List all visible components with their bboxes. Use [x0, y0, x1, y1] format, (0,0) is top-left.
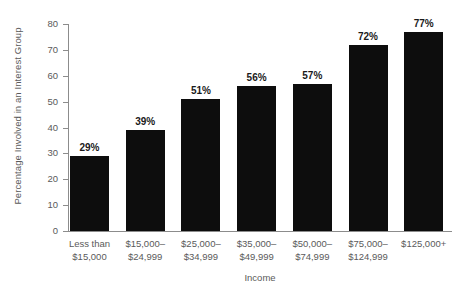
y-tick-label: 60 [18, 71, 58, 81]
bar-group[interactable]: 56% [237, 24, 276, 231]
y-tick-label: 30 [18, 148, 58, 158]
bar[interactable] [293, 84, 332, 231]
y-tick-mark [63, 231, 68, 232]
y-tick-label: 70 [18, 45, 58, 55]
y-tick-label: 10 [18, 200, 58, 210]
bar-value-label: 77% [396, 18, 451, 29]
bar-value-label: 57% [285, 70, 340, 81]
bar-value-label: 39% [118, 116, 173, 127]
x-tick-label: $125,000+ [389, 238, 459, 251]
bar[interactable] [126, 130, 165, 231]
x-axis-line [68, 231, 452, 232]
bar-group[interactable]: 77% [404, 24, 443, 231]
bar[interactable] [237, 86, 276, 231]
bar-group[interactable]: 29% [70, 24, 109, 231]
y-axis-title: Percentage Involved in an Interest Group [6, 0, 28, 232]
bar-group[interactable]: 39% [126, 24, 165, 231]
bar-group[interactable]: 51% [181, 24, 220, 231]
bar-value-label: 29% [62, 142, 117, 153]
x-tick-label-line: $124,999 [333, 251, 403, 264]
y-tick-label: 0 [18, 226, 58, 236]
bar[interactable] [181, 99, 220, 231]
bar[interactable] [404, 32, 443, 231]
bar[interactable] [70, 156, 109, 231]
bar-value-label: 56% [229, 72, 284, 83]
x-tick-label-line: $125,000+ [389, 238, 459, 251]
y-tick-label: 80 [18, 19, 58, 29]
y-tick-label: 20 [18, 174, 58, 184]
bar-group[interactable]: 57% [293, 24, 332, 231]
bar-group[interactable]: 72% [349, 24, 388, 231]
y-tick-label: 40 [18, 123, 58, 133]
bar-chart-figure: Percentage Involved in an Interest Group… [0, 0, 468, 300]
x-axis-title: Income [68, 272, 452, 283]
bar[interactable] [349, 45, 388, 231]
bar-value-label: 51% [173, 85, 228, 96]
bar-value-label: 72% [341, 31, 396, 42]
plot-area: 29%39%51%56%57%72%77% [68, 24, 452, 231]
y-tick-label: 50 [18, 97, 58, 107]
